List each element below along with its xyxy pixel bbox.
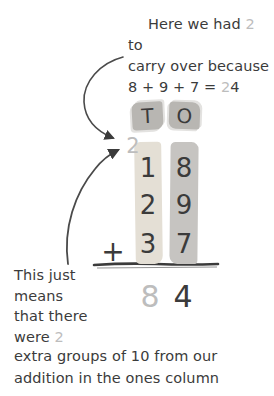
- equation-carry-digit: 2: [221, 79, 230, 95]
- plus-operator: +: [99, 237, 127, 267]
- note-carry-line2: carry over because: [128, 56, 270, 77]
- result-ones-digit: 4: [166, 278, 200, 316]
- tens-column-header: T: [131, 101, 163, 131]
- addition-carry-worksheet: Here we had 2 to carry over because 8 + …: [0, 0, 274, 396]
- note-extra-groups-continued: extra groups of 10 from our addition in …: [14, 346, 264, 389]
- note-extra-line1: This just: [14, 265, 124, 286]
- ones-header-letter: O: [176, 103, 193, 128]
- note-carry-line3: 8 + 9 + 7 = 24: [128, 77, 270, 98]
- note-carry-over: Here we had 2 to carry over because 8 + …: [128, 14, 270, 98]
- addend-3-tens: 3: [132, 227, 164, 261]
- note-carry-line1-number: 2: [245, 16, 254, 32]
- note-carry-line1-tail: to: [128, 37, 143, 53]
- note-extra-line3: that there: [14, 306, 124, 327]
- addend-2-ones: 9: [168, 188, 200, 222]
- addend-3-ones: 7: [168, 227, 200, 261]
- curved-arrow-from-top-note: [84, 57, 123, 138]
- equation-text: 8 + 9 + 7 =: [128, 79, 221, 95]
- note-extra-groups: This just means that there were 2: [14, 265, 124, 347]
- addend-1-tens: 1: [132, 151, 164, 185]
- result-tens-digit: 8: [133, 278, 167, 316]
- note-carry-line1-text: Here we had: [148, 16, 245, 32]
- note-extra-line2: means: [14, 286, 124, 307]
- note-extra-line4-text: were: [14, 329, 54, 345]
- note-extra-line4-number: 2: [54, 329, 63, 345]
- addend-2-tens: 2: [132, 188, 164, 222]
- note-extra-line4: were 2: [14, 327, 124, 348]
- addend-1-ones: 8: [168, 151, 200, 185]
- tens-header-letter: T: [141, 104, 154, 129]
- note-carry-line1: Here we had 2 to: [128, 14, 270, 56]
- equation-ones-digit: 4: [230, 79, 239, 95]
- note-extra-line6: addition in the ones column: [14, 368, 264, 390]
- ones-column-header: O: [169, 101, 201, 129]
- note-extra-line5: extra groups of 10 from our: [14, 346, 264, 368]
